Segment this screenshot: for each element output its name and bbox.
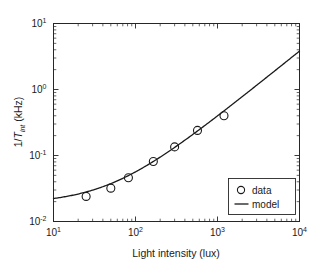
figure-container: 10110210310410-210-1100101 Light intensi… bbox=[0, 0, 322, 272]
x-axis-title: Light intensity (lux) bbox=[132, 247, 220, 259]
y-axis-title: 1/Tint (kHz) bbox=[12, 97, 26, 148]
legend: data model bbox=[229, 179, 296, 215]
log-log-chart: 10110210310410-210-1100101 Light intensi… bbox=[0, 0, 322, 272]
legend-label-model: model bbox=[252, 199, 279, 210]
legend-label-data: data bbox=[252, 185, 272, 196]
